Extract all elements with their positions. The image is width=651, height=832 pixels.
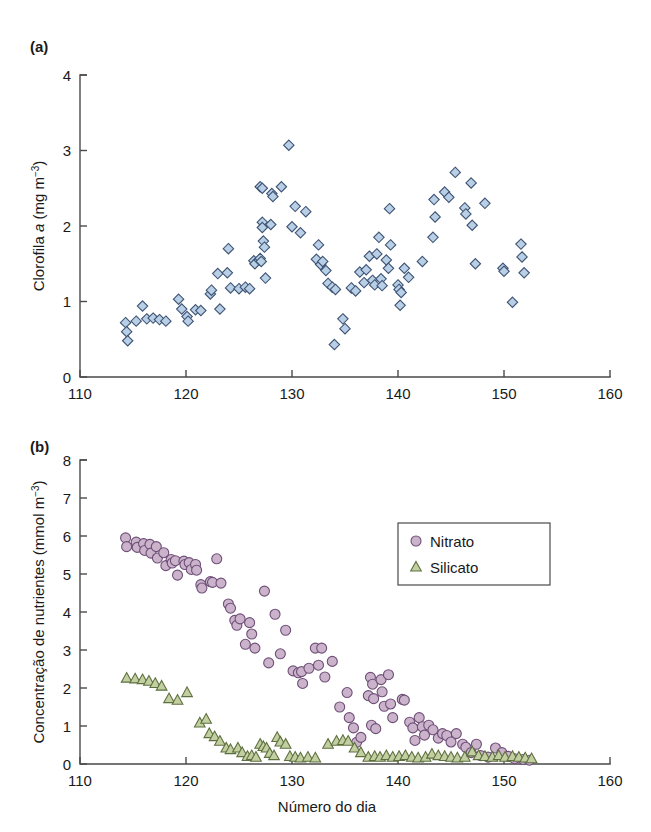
x-tick-label: 160 [597, 385, 622, 402]
data-point-circle [212, 554, 222, 564]
data-point-circle [235, 614, 245, 624]
data-point-circle [240, 639, 250, 649]
data-point-circle [342, 688, 352, 698]
data-point-diamond [329, 339, 339, 349]
data-point-triangle [201, 714, 212, 724]
panel-a-label: (a) [30, 38, 48, 55]
x-tick-label: 120 [173, 772, 198, 789]
data-point-triangle [172, 695, 183, 705]
data-point-diamond [340, 323, 350, 333]
data-point-diamond [450, 167, 460, 177]
data-point-diamond [287, 222, 297, 232]
data-point-diamond [213, 268, 223, 278]
data-point-diamond [428, 232, 438, 242]
data-point-circle [344, 713, 354, 723]
data-point-diamond [121, 327, 131, 337]
figure-container: (a) 01234110120130140150160Clorofila a (… [0, 0, 651, 832]
y-tick-label: 3 [63, 642, 71, 659]
data-point-diamond [399, 263, 409, 273]
x-tick-label: 120 [173, 385, 198, 402]
data-point-circle [259, 586, 269, 596]
x-tick-label: 110 [68, 385, 92, 402]
data-point-circle [320, 672, 330, 682]
series-clorofila-a [120, 140, 529, 350]
data-point-diamond [403, 272, 413, 282]
panel-a: (a) 01234110120130140150160Clorofila a (… [0, 0, 651, 416]
y-tick-label: 2 [63, 680, 71, 697]
data-point-diamond [516, 239, 526, 249]
y-tick-label: 3 [63, 142, 71, 159]
data-point-circle [270, 609, 280, 619]
x-tick-label: 130 [279, 772, 304, 789]
panel-a-plot: 01234110120130140150160Clorofila a (mg m… [0, 0, 651, 416]
data-point-diamond [260, 273, 270, 283]
data-point-circle [388, 713, 398, 723]
y-tick-label: 7 [63, 490, 71, 507]
data-point-diamond [222, 268, 232, 278]
data-point-diamond [470, 259, 480, 269]
data-point-diamond [137, 301, 147, 311]
legend-label: Silicato [430, 559, 478, 576]
data-point-circle [298, 678, 308, 688]
data-point-circle [451, 729, 461, 739]
data-point-diamond [295, 228, 305, 238]
data-point-diamond [467, 220, 477, 230]
data-point-circle [335, 702, 345, 712]
data-point-circle [327, 656, 337, 666]
data-point-circle [247, 629, 257, 639]
data-point-diamond [383, 263, 393, 273]
data-point-triangle [121, 673, 132, 683]
data-point-diamond [276, 182, 286, 192]
data-point-diamond [173, 294, 183, 304]
x-tick-label: 160 [597, 772, 622, 789]
data-point-circle [408, 723, 418, 733]
data-point-circle [369, 694, 379, 704]
data-point-circle [383, 670, 393, 680]
data-point-diamond [466, 178, 476, 188]
data-point-circle [314, 660, 324, 670]
data-point-diamond [223, 243, 233, 253]
data-point-circle [356, 732, 366, 742]
data-point-diamond [507, 297, 517, 307]
data-point-triangle [164, 693, 175, 703]
y-tick-label: 2 [63, 218, 71, 235]
y-tick-label: 4 [63, 604, 71, 621]
data-point-diamond [131, 316, 141, 326]
data-point-circle [377, 687, 387, 697]
data-point-circle [399, 695, 409, 705]
y-axis-title: Clorofila a (mg m−3) [30, 161, 48, 292]
x-tick-label: 150 [491, 772, 516, 789]
data-point-diamond [429, 194, 439, 204]
x-axis-title: Número do dia [278, 798, 377, 815]
data-point-diamond [517, 252, 527, 262]
legend-label: Nitrato [430, 533, 474, 550]
data-point-diamond [395, 300, 405, 310]
data-point-diamond [430, 212, 440, 222]
data-point-diamond [385, 240, 395, 250]
y-tick-label: 0 [63, 756, 71, 773]
data-point-circle [226, 603, 236, 613]
y-tick-label: 4 [63, 67, 71, 84]
data-point-circle [371, 724, 381, 734]
data-point-diamond [384, 203, 394, 213]
legend-marker-circle [411, 536, 421, 546]
data-point-diamond [120, 317, 130, 327]
panel-b-label: (b) [30, 438, 49, 455]
data-point-circle [317, 643, 327, 653]
data-point-circle [275, 649, 285, 659]
y-tick-label: 8 [63, 452, 71, 469]
x-tick-label: 150 [491, 385, 516, 402]
data-point-circle [245, 618, 255, 628]
data-point-diamond [290, 201, 300, 211]
y-tick-label: 0 [63, 369, 71, 386]
x-tick-label: 130 [279, 385, 304, 402]
x-tick-label: 140 [385, 772, 410, 789]
data-point-diamond [123, 336, 133, 346]
y-axis-title: Concentração de nutrientes (mmol m−3) [30, 480, 48, 743]
data-point-circle [414, 713, 424, 723]
data-point-circle [216, 578, 226, 588]
data-point-triangle [182, 687, 193, 697]
data-point-diamond [359, 277, 369, 287]
y-tick-label: 1 [63, 293, 71, 310]
data-point-diamond [381, 255, 391, 265]
